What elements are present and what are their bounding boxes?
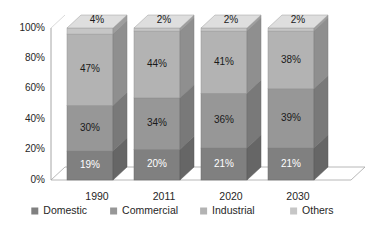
bar-data-label: 21%: [281, 158, 301, 169]
bar-data-label: 21%: [214, 158, 234, 169]
legend-label: Domestic: [43, 204, 87, 216]
bar-data-label: 36%: [214, 114, 234, 125]
bar-column: 19%30%47%4%: [67, 14, 127, 180]
bar-segment-front: [201, 28, 247, 31]
bar-data-label: 47%: [80, 63, 100, 74]
legend-label: Others: [302, 204, 334, 216]
bar-data-label: 2%: [224, 14, 239, 25]
bar-data-label: 41%: [214, 56, 234, 67]
y-tick-label: 100%: [19, 22, 45, 33]
legend-label: Commercial: [122, 204, 178, 216]
category-label: 2030: [286, 190, 310, 202]
category-label: 2011: [153, 190, 176, 202]
stacked-column-chart-3d: 0%20%40%60%80%100% 19%30%47%4%20%34%44%2…: [0, 0, 367, 230]
y-tick-label: 80%: [25, 52, 45, 63]
legend-swatch-icon: [31, 208, 38, 215]
bar-column: 21%36%41%2%: [201, 14, 261, 180]
bar-data-label: 2%: [157, 14, 172, 25]
bar-segment-front: [67, 28, 113, 34]
y-tick-label: 60%: [25, 82, 45, 93]
bar-data-label: 2%: [291, 14, 306, 25]
legend-label: Industrial: [212, 204, 255, 216]
bar-data-label: 30%: [80, 122, 100, 133]
bar-data-label: 19%: [80, 159, 100, 170]
legend-swatch-icon: [290, 208, 297, 215]
bar-column: 20%34%44%2%: [134, 14, 194, 180]
legend-swatch-icon: [200, 208, 207, 215]
y-tick-label: 0%: [31, 174, 46, 185]
y-tick-label: 20%: [25, 143, 45, 154]
bar-data-label: 44%: [147, 58, 167, 69]
y-tick-label: 40%: [25, 113, 45, 124]
bar-data-label: 39%: [281, 112, 301, 123]
bar-segment-front: [134, 28, 180, 31]
chart-container: 0%20%40%60%80%100% 19%30%47%4%20%34%44%2…: [0, 0, 367, 230]
bar-column: 21%39%38%2%: [268, 14, 328, 180]
category-label: 2020: [219, 190, 243, 202]
bar-data-label: 4%: [90, 14, 105, 25]
bar-segment-front: [268, 28, 314, 31]
bar-segment-side: [113, 21, 127, 105]
bar-data-label: 20%: [147, 158, 167, 169]
bar-data-label: 34%: [147, 117, 167, 128]
legend-swatch-icon: [110, 208, 117, 215]
bar-segment-side: [180, 18, 194, 98]
bar-data-label: 38%: [281, 54, 301, 65]
category-label: 1990: [85, 190, 109, 202]
